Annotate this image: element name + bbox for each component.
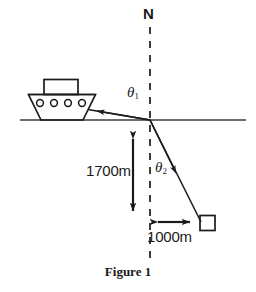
theta1-subscript: 1 (134, 91, 139, 101)
porthole-icon (37, 100, 86, 107)
horizontal-distance-label: 1000m (147, 229, 192, 244)
figure-caption: Figure 1 (0, 265, 256, 278)
figure-container: N θ1 θ2 1700m 1000m Figure 1 (0, 0, 256, 292)
north-label: N (143, 6, 154, 21)
theta2-subscript: 2 (162, 166, 167, 176)
bearing-line-to-ship (88, 110, 150, 121)
angle-theta1-label: θ1 (127, 85, 139, 100)
ship-cabin (44, 80, 78, 95)
figure-diagram (0, 0, 256, 292)
ship-icon (29, 80, 96, 121)
square-marker (200, 216, 215, 231)
angle-theta2-label: θ2 (155, 160, 167, 175)
vertical-distance-label: 1700m (86, 163, 131, 178)
